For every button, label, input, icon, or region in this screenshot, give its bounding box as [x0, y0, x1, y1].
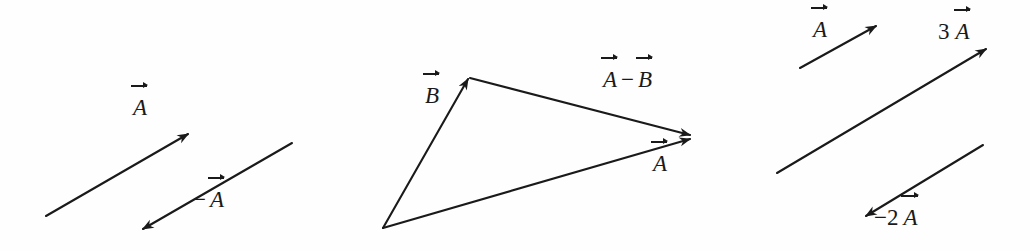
a-overarrow-glyph: A [652, 152, 668, 175]
label-vector-b-mid: B [424, 84, 440, 107]
vector-a-minus-b-mid-line [470, 78, 690, 135]
vector-diagram-figure: A −A B A−B A A 3A −2A [0, 0, 1030, 251]
vector-3a-right-line [777, 49, 986, 173]
label-vector-a-minus-b-mid: A−B [602, 68, 653, 91]
label-vector-a-left: A [132, 96, 148, 119]
vector-neg-a-left-line [143, 143, 292, 229]
scalar-coefficient-neg2: −2 [874, 205, 898, 230]
label-vector-neg-a-left: −A [190, 188, 225, 211]
label-vector-a-right: A [812, 18, 828, 41]
b-overarrow-glyph: B [637, 68, 653, 91]
minus-sign: − [618, 67, 637, 92]
label-vector-3a-right: 3A [938, 20, 971, 43]
label-vector-neg-2a-right: −2A [874, 206, 919, 229]
vector-a-left-line [46, 134, 188, 216]
label-vector-a-mid: A [652, 152, 668, 175]
scalar-coefficient-3: 3 [938, 19, 950, 44]
a-overarrow-glyph: A [209, 188, 225, 211]
a-overarrow-glyph: A [132, 96, 148, 119]
b-overarrow-glyph: B [424, 84, 440, 107]
a-overarrow-glyph: A [602, 68, 618, 91]
a-overarrow-glyph: A [902, 206, 918, 229]
a-overarrow-glyph: A [955, 20, 971, 43]
vector-a-mid-line [383, 139, 690, 228]
a-overarrow-glyph: A [812, 18, 828, 41]
minus-sign: − [190, 187, 209, 212]
